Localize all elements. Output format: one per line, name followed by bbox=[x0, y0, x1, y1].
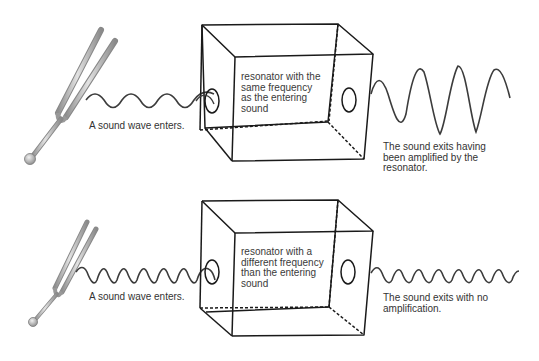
bottom-enter-label: A sound wave enters. bbox=[89, 292, 185, 303]
tuning-fork-icon bbox=[29, 222, 97, 327]
exiting-amplified-wave bbox=[371, 66, 510, 134]
exiting-unamplified-wave bbox=[371, 268, 519, 283]
top-resonator-label: resonator with the same frequency as the… bbox=[241, 72, 321, 114]
bottom-exit-label: The sound exits with no amplification. bbox=[383, 293, 488, 314]
entering-wave bbox=[76, 268, 215, 283]
top-exit-label: The sound exits having been amplified by… bbox=[383, 142, 486, 174]
top-enter-label: A sound wave enters. bbox=[89, 121, 185, 132]
entering-wave bbox=[86, 92, 214, 108]
bottom-resonator-label: resonator with a different frequency tha… bbox=[241, 247, 324, 289]
